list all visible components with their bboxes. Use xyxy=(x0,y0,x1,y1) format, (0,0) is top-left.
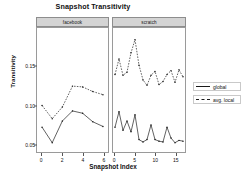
data-point xyxy=(122,75,123,76)
data-point xyxy=(62,120,63,121)
data-point xyxy=(134,39,135,40)
plot-lines-scratch xyxy=(113,28,185,152)
data-point xyxy=(146,85,147,86)
page-title: Snapshot Transitivity xyxy=(0,2,186,11)
series-line-avg-local xyxy=(42,86,103,119)
y-tick-mark xyxy=(34,66,37,67)
data-point xyxy=(122,130,123,131)
x-tick-mark xyxy=(176,153,177,156)
data-point xyxy=(138,139,139,140)
data-point xyxy=(150,75,151,76)
data-point xyxy=(126,120,127,121)
data-point xyxy=(174,82,175,83)
series-line-avg-local xyxy=(115,40,183,86)
y-tick-mark xyxy=(34,105,37,106)
data-point xyxy=(166,74,167,75)
data-point xyxy=(166,126,167,127)
data-point xyxy=(51,118,52,119)
x-tick-mark xyxy=(41,153,42,156)
data-point xyxy=(154,139,155,140)
data-point xyxy=(114,74,115,75)
data-point xyxy=(82,113,83,114)
series-line-global xyxy=(42,111,103,143)
legend: global avg. local xyxy=(193,82,241,104)
legend-swatch-solid xyxy=(196,86,210,87)
data-point xyxy=(62,106,63,107)
legend-label: global xyxy=(213,84,226,90)
panel-strip-label: facebook xyxy=(63,20,82,25)
panel-strip-label: scratch xyxy=(141,20,157,25)
data-point xyxy=(170,137,171,138)
x-tick-mark xyxy=(104,153,105,156)
data-point xyxy=(92,121,93,122)
chart-figure: Snapshot Transitivity Transitivity 0.050… xyxy=(0,0,243,179)
data-point xyxy=(130,52,131,53)
data-point xyxy=(126,71,127,72)
x-tick-mark xyxy=(135,153,136,156)
data-point xyxy=(72,110,73,111)
legend-item-global[interactable]: global xyxy=(193,82,241,91)
data-point xyxy=(142,79,143,80)
data-point xyxy=(41,105,42,106)
legend-swatch-dashed xyxy=(196,99,210,100)
legend-item-avg-local[interactable]: avg. local xyxy=(193,95,241,104)
data-point xyxy=(118,58,119,59)
x-tick-mark xyxy=(114,153,115,156)
data-point xyxy=(118,111,119,112)
data-point xyxy=(92,91,93,92)
data-point xyxy=(72,85,73,86)
legend-label: avg. local xyxy=(213,97,234,103)
data-point xyxy=(114,126,115,127)
data-point xyxy=(102,94,103,95)
x-tick-mark xyxy=(83,153,84,156)
x-axis-label: Snapshot Index xyxy=(38,163,188,170)
plot-panel-scratch xyxy=(112,27,186,153)
plot-lines-facebook xyxy=(37,28,108,152)
data-point xyxy=(158,140,159,141)
data-point xyxy=(162,141,163,142)
data-point xyxy=(162,81,163,82)
data-point xyxy=(150,124,151,125)
panel-strip-scratch: scratch xyxy=(112,17,186,27)
series-line-global xyxy=(115,112,183,143)
data-point xyxy=(174,142,175,143)
plot-panel-facebook xyxy=(36,27,109,153)
data-point xyxy=(182,140,183,141)
data-point xyxy=(138,64,139,65)
data-point xyxy=(154,71,155,72)
data-point xyxy=(178,140,179,141)
data-point xyxy=(82,86,83,87)
data-point xyxy=(182,76,183,77)
data-point xyxy=(102,126,103,127)
x-tick-mark xyxy=(155,153,156,156)
data-point xyxy=(51,142,52,143)
data-point xyxy=(134,114,135,115)
data-point xyxy=(178,69,179,70)
x-tick-mark xyxy=(62,153,63,156)
data-point xyxy=(142,141,143,142)
data-point xyxy=(158,84,159,85)
data-point xyxy=(146,139,147,140)
data-point xyxy=(170,70,171,71)
y-axis: 0.050.100.15 xyxy=(0,27,35,153)
data-point xyxy=(130,131,131,132)
panel-strip-facebook: facebook xyxy=(36,17,109,27)
data-point xyxy=(41,126,42,127)
y-tick-mark xyxy=(34,145,37,146)
